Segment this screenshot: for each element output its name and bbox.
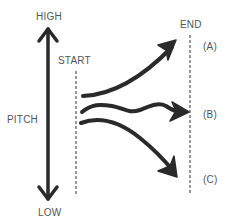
start-label: START xyxy=(58,56,91,66)
outcome-a-label: (A) xyxy=(203,42,217,52)
end-label: END xyxy=(180,20,202,30)
arrow-c-falling-icon xyxy=(81,120,177,177)
diagram-graphics xyxy=(0,0,229,224)
outcome-c-label: (C) xyxy=(203,175,217,185)
pitch-contour-diagram: HIGH LOW PITCH START END (A) (B) (C) xyxy=(0,0,229,224)
pitch-axis-arrow-icon xyxy=(39,29,57,199)
arrow-a-rising-icon xyxy=(83,40,176,96)
high-label: HIGH xyxy=(36,12,62,22)
outcome-b-label: (B) xyxy=(203,110,217,120)
low-label: LOW xyxy=(38,208,61,218)
pitch-label: PITCH xyxy=(7,115,38,125)
